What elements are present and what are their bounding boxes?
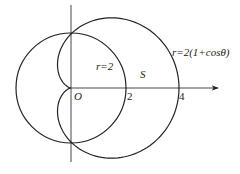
origin-label: O [74, 90, 82, 102]
cardioid-label: r=2(1+cosθ) [172, 46, 230, 59]
tick-label-2: 2 [127, 90, 133, 102]
circle-label: r=2 [96, 60, 114, 72]
polar-diagram: r=2 r=2(1+cosθ) S O 2 4 [0, 0, 240, 174]
region-label: S [140, 68, 146, 80]
tick-label-4: 4 [179, 90, 185, 102]
